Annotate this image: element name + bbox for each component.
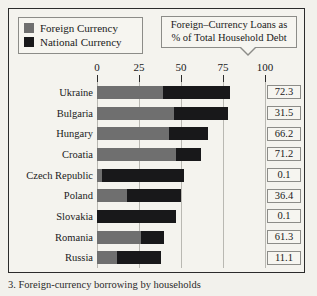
bar-segment	[97, 127, 169, 140]
chart-title-line-2: % of Total Household Debt	[165, 32, 293, 45]
bar-row	[97, 251, 265, 264]
bar-segment	[97, 231, 141, 244]
x-tick-label-50: 50	[176, 61, 187, 73]
x-tick-mark-100	[265, 75, 266, 82]
bar-segment	[163, 86, 230, 99]
value-box-ukraine: 72.3	[267, 85, 301, 99]
x-tick-label-75: 75	[218, 61, 229, 73]
chart-legend: Foreign Currency National Currency	[18, 17, 143, 54]
chart-title-box: Foreign–Currency Loans as % of Total Hou…	[161, 16, 297, 48]
category-axis-labels: UkraineBulgariaHungaryCroatiaCzech Repub…	[13, 82, 93, 268]
value-box-poland: 36.4	[267, 189, 301, 203]
category-label-bulgaria: Bulgaria	[57, 108, 93, 120]
x-tick-label-25: 25	[134, 61, 145, 73]
value-box-hungary: 66.2	[267, 127, 301, 141]
bar-row	[97, 127, 265, 140]
value-annotation-column: 72.331.566.271.20.136.40.161.311.1	[267, 82, 303, 268]
category-label-czech-republic: Czech Republic	[26, 170, 93, 182]
legend-swatch-foreign-currency	[24, 23, 34, 33]
value-box-slovakia: 0.1	[267, 209, 301, 223]
bar-segment	[97, 189, 127, 202]
x-tick-label-0: 0	[94, 61, 100, 73]
x-tick-mark-75	[223, 75, 224, 82]
bar-row	[97, 148, 265, 161]
category-label-romania: Romania	[55, 232, 93, 244]
bar-segment	[97, 107, 174, 120]
legend-label-foreign-currency: Foreign Currency	[40, 22, 118, 35]
bar-segment	[174, 107, 228, 120]
figure-caption: 3. Foreign-currency borrowing by househo…	[8, 278, 308, 294]
value-box-romania: 61.3	[267, 230, 301, 244]
bar-row	[97, 169, 265, 182]
category-label-hungary: Hungary	[56, 128, 93, 140]
category-label-ukraine: Ukraine	[59, 87, 93, 99]
plot-area	[97, 82, 265, 268]
gridline-100	[265, 82, 266, 268]
callout-tail-inner	[240, 46, 256, 54]
legend-item-foreign-currency: Foreign Currency	[24, 21, 137, 35]
legend-label-national-currency: National Currency	[40, 36, 122, 49]
bar-segment	[97, 210, 176, 223]
legend-swatch-national-currency	[24, 37, 34, 47]
bar-segment	[117, 251, 161, 264]
bar-row	[97, 210, 265, 223]
bar-row	[97, 107, 265, 120]
x-axis: 0255075100	[97, 61, 265, 83]
bar-segment	[102, 169, 184, 182]
bar-segment	[169, 127, 208, 140]
bar-segment	[127, 189, 181, 202]
category-label-russia: Russia	[65, 252, 93, 264]
chart-title-callout: Foreign–Currency Loans as % of Total Hou…	[161, 16, 297, 48]
category-label-croatia: Croatia	[62, 149, 93, 161]
chart-figure: Foreign Currency National Currency Forei…	[8, 8, 305, 273]
chart-title-line-1: Foreign–Currency Loans as	[165, 19, 293, 32]
category-label-slovakia: Slovakia	[56, 211, 93, 223]
x-tick-label-100: 100	[257, 61, 274, 73]
bar-segment	[141, 231, 165, 244]
value-box-bulgaria: 31.5	[267, 106, 301, 120]
value-box-croatia: 71.2	[267, 147, 301, 161]
bar-row	[97, 86, 265, 99]
bar-segment	[176, 148, 201, 161]
x-tick-mark-50	[181, 75, 182, 82]
category-label-poland: Poland	[64, 190, 93, 202]
bar-segment	[97, 86, 163, 99]
bar-row	[97, 189, 265, 202]
x-tick-mark-25	[139, 75, 140, 82]
legend-item-national-currency: National Currency	[24, 35, 137, 49]
value-box-russia: 11.1	[267, 251, 301, 265]
x-tick-mark-0	[97, 75, 98, 82]
value-box-czech-republic: 0.1	[267, 168, 301, 182]
bar-segment	[97, 148, 176, 161]
bar-segment	[97, 251, 117, 264]
bar-row	[97, 231, 265, 244]
